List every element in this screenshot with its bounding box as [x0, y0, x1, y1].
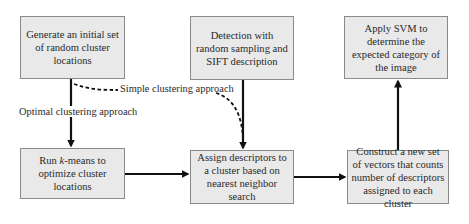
node-label: Apply SVM to determine the expected cate… — [348, 22, 444, 74]
node-assign-descriptors: Assign descriptors to a cluster based on… — [190, 150, 294, 204]
node-label-prefix: Run — [39, 155, 59, 166]
node-apply-svm: Apply SVM to determine the expected cate… — [344, 16, 448, 79]
node-label: Generate an initial set of random cluste… — [24, 28, 121, 67]
node-label: Construct a new set of vectors that coun… — [351, 145, 445, 210]
node-label: Run k-means to optimize cluster location… — [24, 154, 121, 193]
edge-generate-to-assign-dashed — [74, 84, 118, 90]
node-label: Detection with random sampling and SIFT … — [194, 29, 290, 68]
edge-generate-to-assign-dashed-curve — [216, 93, 243, 140]
node-run-kmeans: Run k-means to optimize cluster location… — [20, 148, 125, 199]
node-generate-initial-clusters: Generate an initial set of random cluste… — [20, 16, 125, 79]
edge-label-optimal-clustering: Optimal clustering approach — [19, 106, 137, 117]
node-detection-sift: Detection with random sampling and SIFT … — [190, 16, 294, 80]
node-label: Assign descriptors to a cluster based on… — [194, 151, 290, 203]
edge-label-simple-clustering: Simple clustering approach — [120, 83, 234, 94]
node-construct-vectors: Construct a new set of vectors that coun… — [347, 150, 449, 204]
